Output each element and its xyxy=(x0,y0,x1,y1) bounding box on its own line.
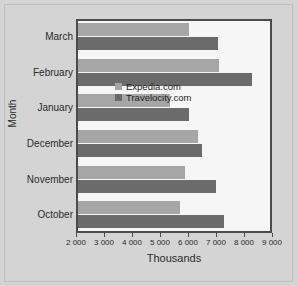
bar xyxy=(78,180,216,193)
x-axis: 2 0003 0004 0005 0006 0007 0008 0009 000 xyxy=(76,233,272,253)
bar xyxy=(78,108,189,121)
y-axis-tick-label: December xyxy=(1,138,73,149)
legend-item: Expedia.com xyxy=(115,81,191,92)
chart-figure: Month MarchFebruaryJanuaryDecemberNovemb… xyxy=(0,0,297,286)
bar xyxy=(78,166,185,179)
x-axis-tick xyxy=(272,233,273,237)
y-axis-tick-label: February xyxy=(1,67,73,78)
y-axis-tick-label: March xyxy=(1,31,73,42)
bar xyxy=(78,37,218,50)
x-axis-title: Thousands xyxy=(76,252,272,264)
x-axis-tick xyxy=(244,233,245,237)
plot-area xyxy=(76,19,272,233)
bar xyxy=(78,59,219,72)
bar xyxy=(78,215,224,228)
chart-legend: Expedia.comTravelocity.com xyxy=(115,81,191,103)
y-axis-tick-labels: MarchFebruaryJanuaryDecemberNovemberOcto… xyxy=(0,19,73,233)
x-axis-tick xyxy=(104,233,105,237)
y-axis-tick-label: November xyxy=(1,174,73,185)
y-axis-tick-label: October xyxy=(1,209,73,220)
bar xyxy=(78,23,189,36)
bar xyxy=(78,201,180,214)
bar-group xyxy=(78,164,270,200)
bar-group xyxy=(78,128,270,164)
x-axis-tick xyxy=(188,233,189,237)
x-axis-tick xyxy=(160,233,161,237)
legend-label: Travelocity.com xyxy=(126,92,191,103)
x-axis-tick xyxy=(76,233,77,237)
x-axis-tick-label: 9 000 xyxy=(252,238,292,247)
bars-container xyxy=(78,21,270,231)
bar xyxy=(78,144,202,157)
y-axis-tick-label: January xyxy=(1,102,73,113)
legend-item: Travelocity.com xyxy=(115,92,191,103)
x-axis-tick xyxy=(132,233,133,237)
legend-swatch-icon xyxy=(115,83,122,90)
legend-label: Expedia.com xyxy=(126,81,181,92)
bar-group xyxy=(78,21,270,57)
x-axis-tick xyxy=(216,233,217,237)
bar-group xyxy=(78,199,270,233)
bar xyxy=(78,130,198,143)
legend-swatch-icon xyxy=(115,94,122,101)
